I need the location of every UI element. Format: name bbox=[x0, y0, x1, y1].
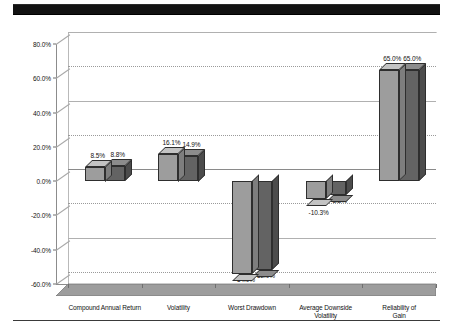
y-tick-label: 60.0% bbox=[33, 75, 51, 82]
x-tick-mark bbox=[289, 284, 290, 288]
bar-side-face bbox=[399, 63, 406, 181]
bar[interactable] bbox=[85, 167, 105, 182]
bottom-rule bbox=[13, 320, 440, 321]
x-axis-category-label: Volatility bbox=[167, 304, 190, 312]
bar-side-face bbox=[272, 174, 279, 270]
bar-side-face bbox=[252, 174, 259, 273]
y-tick-mark bbox=[53, 44, 56, 45]
y-tick-mark bbox=[53, 215, 56, 216]
x-axis-line bbox=[56, 284, 436, 285]
y-tick-label: 20.0% bbox=[33, 143, 51, 150]
x-tick-mark bbox=[362, 284, 363, 288]
bar-value-label: 65.0% bbox=[403, 55, 421, 62]
bar-value-label: -10.3% bbox=[309, 209, 329, 216]
bar[interactable] bbox=[232, 181, 252, 274]
bar-value-label: 8.8% bbox=[111, 151, 125, 158]
bar[interactable] bbox=[158, 154, 178, 182]
x-axis-category-label: Average Downside Volatility bbox=[299, 304, 352, 320]
bar-value-label: 65.0% bbox=[383, 55, 401, 62]
x-axis-category-label: Reliability of Gain bbox=[381, 304, 418, 320]
y-tick-label: 80.0% bbox=[33, 41, 51, 48]
y-tick-mark bbox=[53, 249, 56, 250]
bar-front-face bbox=[306, 181, 326, 199]
bar-chart: 80.0%60.0%40.0%20.0%0.0%-20.0%-40.0%-60.… bbox=[0, 18, 458, 328]
bar-value-label: 8.5% bbox=[91, 152, 105, 159]
x-tick-mark bbox=[142, 284, 143, 288]
y-tick-label: 40.0% bbox=[33, 109, 51, 116]
bar[interactable] bbox=[306, 181, 326, 199]
bar-front-face bbox=[232, 181, 252, 274]
plot-area: 80.0%60.0%40.0%20.0%0.0%-20.0%-40.0%-60.… bbox=[56, 32, 436, 296]
y-tick-mark bbox=[53, 112, 56, 113]
y-tick-label: -60.0% bbox=[31, 281, 51, 288]
bar-side-face bbox=[419, 63, 426, 181]
y-tick-mark bbox=[53, 146, 56, 147]
x-tick-mark bbox=[68, 284, 69, 288]
bar-front-face bbox=[85, 167, 105, 182]
bar-front-face bbox=[379, 70, 399, 181]
x-axis-category-label: Compound Annual Return bbox=[68, 304, 141, 312]
x-axis-category-label: Worst Drawdown bbox=[228, 304, 276, 312]
bar-value-label: 16.1% bbox=[162, 139, 180, 146]
y-tick-label: 0.0% bbox=[37, 178, 51, 185]
bar[interactable] bbox=[379, 70, 399, 181]
y-tick-label: -40.0% bbox=[31, 246, 51, 253]
x-tick-mark bbox=[436, 284, 437, 288]
y-tick-mark bbox=[53, 78, 56, 79]
bar-front-face bbox=[158, 154, 178, 182]
y-tick-label: -20.0% bbox=[31, 212, 51, 219]
header-banner bbox=[13, 4, 440, 15]
y-tick-mark bbox=[53, 181, 56, 182]
gridline bbox=[68, 32, 436, 33]
x-tick-mark bbox=[215, 284, 216, 288]
